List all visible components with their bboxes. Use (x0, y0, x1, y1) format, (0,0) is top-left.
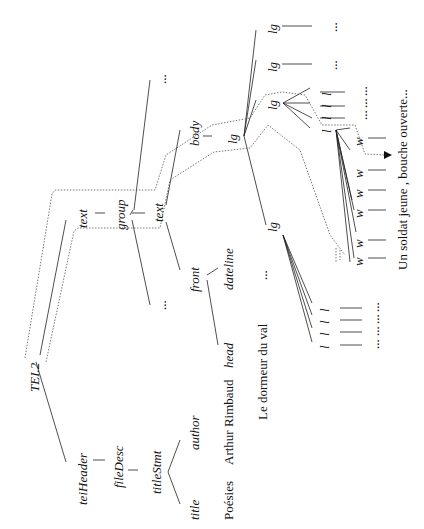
node-author: author (188, 415, 201, 450)
node-w: w (352, 137, 365, 146)
node-lg-4: lg (266, 222, 279, 232)
ellipsis-dateline: ... (256, 270, 269, 280)
ellipsis-l: ... (356, 110, 369, 120)
node-l: l (318, 332, 331, 336)
node-w: w (352, 239, 365, 248)
node-w: w (352, 257, 365, 266)
node-w: w (352, 169, 365, 178)
node-lg-1: lg (266, 24, 279, 34)
node-text-inner: text (152, 203, 165, 222)
node-front: front (188, 267, 201, 292)
ellipsis-l2: ... (368, 326, 381, 336)
node-group: group (114, 199, 127, 230)
node-filedesc: fileDesc (112, 445, 125, 488)
ellipsis-lg-2: ... (326, 60, 339, 70)
ellipsis-lg-1: ... (326, 22, 339, 32)
node-teiheader: teiHeader (76, 453, 89, 505)
node-title: title (188, 500, 201, 520)
ellipsis-l2: ... (368, 314, 381, 324)
node-tei2: TEI.2 (28, 363, 41, 392)
ellipsis-group: ... (155, 300, 168, 310)
line-value: Un soldat jeune , bouche ouverte... (396, 89, 409, 270)
node-body: body (188, 121, 201, 146)
node-titlestmt: titleStmt (150, 451, 163, 494)
node-l: l (318, 345, 331, 349)
node-l: l (320, 129, 333, 133)
node-w: w (352, 209, 365, 218)
node-l: l (320, 92, 333, 96)
tei-tree-diagram: TEI.2 teiHeader fileDesc titleStmt title… (0, 0, 424, 529)
node-head: head (222, 343, 235, 368)
node-lg-3: lg (266, 100, 279, 110)
node-l: l (318, 308, 331, 312)
node-l: l (320, 116, 333, 120)
ellipsis-l: ... (356, 86, 369, 96)
ellipsis-l2: ... (368, 302, 381, 312)
node-l: l (320, 104, 333, 108)
node-l: l (318, 320, 331, 324)
head-value: Le dormeur du val (256, 324, 269, 420)
ellipsis-top: ... (155, 74, 168, 84)
node-text-outer: text (76, 209, 89, 228)
ellipsis-l: ... (356, 98, 369, 108)
title-value: Poésies (222, 481, 235, 520)
node-dateline: dateline (222, 248, 235, 290)
author-value: Arthur Rimbaud (222, 379, 235, 465)
node-w: w (352, 189, 365, 198)
node-lg-2: lg (266, 62, 279, 72)
node-lg-main: lg (226, 134, 239, 144)
ellipsis-l2: ... (368, 339, 381, 349)
